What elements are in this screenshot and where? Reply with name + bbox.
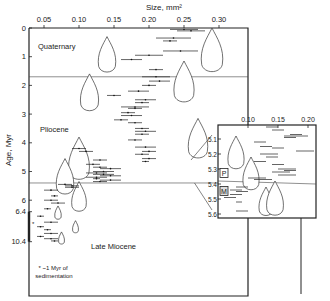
data-point-center <box>131 115 133 117</box>
x-tick-label: 0.25 <box>177 15 192 24</box>
data-point-center <box>169 40 171 42</box>
data-point-center <box>47 229 49 231</box>
footnote: * ~1 Myr of sedimentation <box>35 265 72 279</box>
y-tick-label: 5 <box>22 167 26 176</box>
data-point-center <box>50 199 52 201</box>
inset-y-tick-label: 5.4 <box>208 181 217 188</box>
data-point-center <box>50 221 52 223</box>
data-point-center <box>180 50 182 52</box>
inset-y-tick-label: 5.5 <box>208 196 217 203</box>
inset-y-tick-label: 5.1 <box>208 136 217 143</box>
data-point-center <box>127 112 129 114</box>
data-point-center <box>138 90 140 92</box>
data-point-center <box>103 171 105 173</box>
data-point-center <box>78 148 80 150</box>
epoch-label-quaternary: Quaternary <box>38 42 76 51</box>
shell-outline <box>59 232 65 244</box>
data-point-center <box>50 233 52 235</box>
x-tick-label: 0.15 <box>107 15 122 24</box>
inset-x-tick-label: 0.15 <box>271 116 285 123</box>
data-point-center <box>134 106 136 108</box>
x-axis-label: Size, mm² <box>146 3 182 12</box>
data-point-center <box>141 102 143 104</box>
data-point-center <box>99 181 101 183</box>
data-point-center <box>54 240 56 242</box>
data-point-center <box>50 189 52 191</box>
y-tick-label: 4 <box>22 138 26 147</box>
data-point-center <box>50 238 52 240</box>
x-tick-label: 0.30 <box>212 15 227 24</box>
epoch-label-pliocene: Pliocene <box>40 125 69 134</box>
inset-x-tick-label: 0.10 <box>241 116 255 123</box>
data-point-center <box>148 54 150 56</box>
data-point-center <box>134 122 136 124</box>
data-point-center <box>40 236 42 238</box>
data-point-center <box>110 168 112 170</box>
data-point-center <box>141 133 143 135</box>
data-point-center <box>57 202 59 204</box>
data-point-center <box>103 174 105 176</box>
data-point-center <box>155 69 157 71</box>
data-point-center <box>113 95 115 97</box>
data-point-center <box>131 59 133 61</box>
data-point-center <box>183 29 185 31</box>
data-point-center <box>54 195 56 197</box>
data-point-center <box>110 175 112 177</box>
footnote-text: * ~1 Myr of <box>39 265 69 271</box>
inset-y-tick-label: 5.3 <box>208 166 217 173</box>
y-axis-label: Age, Myr <box>4 134 13 166</box>
data-point-center <box>141 153 143 155</box>
data-point-center <box>148 151 150 153</box>
y-tick-label: 2 <box>22 81 26 90</box>
data-point-center <box>120 119 122 121</box>
shell-outline <box>201 28 223 72</box>
data-point-center <box>99 166 101 168</box>
y-tick-label: 1 <box>22 52 26 61</box>
y-tick-label: 10.4 <box>11 237 26 246</box>
data-point-center <box>134 108 136 110</box>
data-point-center <box>40 215 42 217</box>
data-point-center <box>145 161 147 163</box>
data-point-center <box>47 208 49 210</box>
shell-outline <box>55 206 62 219</box>
shell-outline <box>98 37 115 72</box>
data-point-center <box>96 172 98 174</box>
data-point-center <box>173 37 175 39</box>
data-point-center <box>155 76 157 78</box>
x-tick-label: 0.10 <box>72 15 87 24</box>
x-tick-label: 0.20 <box>142 15 157 24</box>
data-point-center <box>145 146 147 148</box>
data-point-center <box>110 179 112 181</box>
data-point-center <box>134 139 136 141</box>
shell-outline <box>80 74 98 111</box>
data-point-center <box>64 184 66 186</box>
asterisk-marker: * <box>32 221 35 227</box>
data-point-center <box>145 131 147 133</box>
data-point-center <box>71 186 73 188</box>
x-axis-ticks: 0.050.100.150.200.250.30 <box>37 15 227 28</box>
inset-epoch-label: M <box>221 188 227 195</box>
data-point-center <box>96 178 98 180</box>
y-tick-label: 6.4 <box>16 207 26 216</box>
inset-y-tick-label: 5.6 <box>208 211 217 218</box>
data-point-center <box>99 159 101 161</box>
data-point-center <box>71 185 73 187</box>
data-point-center <box>148 158 150 160</box>
data-point-center <box>85 151 87 153</box>
inset-y-tick-label: 5.2 <box>208 151 217 158</box>
y-tick-label: 0 <box>22 24 26 33</box>
shell-outline <box>73 221 79 233</box>
data-point-center <box>190 30 192 32</box>
data-point-center <box>148 85 150 87</box>
data-point-center <box>92 164 94 166</box>
footnote-text-2: sedimentation <box>35 273 72 279</box>
chart: * 0.050.100.150.200.250.30 01234566.410.… <box>0 0 330 301</box>
inset-epoch-label: P <box>222 170 227 177</box>
y-tick-label: 6 <box>22 196 26 205</box>
inset-plot: 0.100.150.20 5.15.25.35.45.55.6 PM <box>208 116 316 218</box>
shell-outline <box>174 61 194 102</box>
data-point-center <box>40 226 42 228</box>
data-point-center <box>145 99 147 101</box>
data-point-center <box>141 128 143 130</box>
data-point-center <box>96 176 98 178</box>
